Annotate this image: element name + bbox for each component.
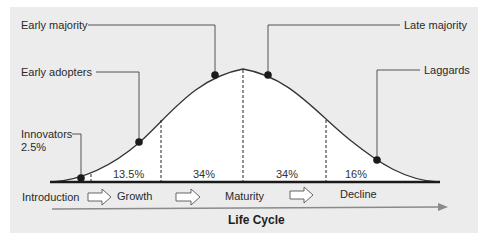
- label-innovators: Innovators: [21, 128, 72, 141]
- bell-curve-graphic: [0, 0, 488, 240]
- dot-early-majority: [211, 71, 219, 79]
- dot-late-majority: [264, 71, 272, 79]
- pct-early-adopters: 13.5%: [113, 168, 144, 181]
- arrow-icon-growth-maturity: [176, 189, 200, 205]
- label-laggards: Laggards: [424, 64, 470, 77]
- label-early-majority: Early majority: [21, 19, 88, 32]
- stage-maturity: Maturity: [225, 190, 264, 203]
- lifecycle-arrow-head: [438, 203, 448, 211]
- arrow-icon-intro-growth: [88, 189, 111, 205]
- pct-late-majority: 34%: [276, 168, 298, 181]
- leader-early-adopters: [96, 72, 139, 142]
- dot-innovators: [77, 174, 85, 182]
- leader-late-majority: [268, 25, 400, 75]
- pct-early-majority: 34%: [193, 168, 215, 181]
- label-innovators-pct: 2.5%: [21, 141, 46, 154]
- dot-laggards: [373, 156, 381, 164]
- leader-innovators: [72, 134, 81, 178]
- stage-decline: Decline: [340, 188, 377, 201]
- label-late-majority: Late majority: [404, 19, 467, 32]
- arrow-icon-maturity-decline: [290, 187, 313, 203]
- stage-growth: Growth: [117, 190, 152, 203]
- leader-early-majority: [88, 25, 215, 75]
- leader-laggards: [377, 70, 420, 160]
- dot-early-adopters: [135, 138, 143, 146]
- adoption-curve: [52, 69, 438, 182]
- stage-introduction: Introduction: [22, 191, 79, 204]
- diagram-title: Life Cycle: [228, 213, 285, 227]
- lifecycle-arrow-line: [52, 207, 440, 209]
- label-early-adopters: Early adopters: [21, 66, 92, 79]
- pct-laggards: 16%: [345, 168, 367, 181]
